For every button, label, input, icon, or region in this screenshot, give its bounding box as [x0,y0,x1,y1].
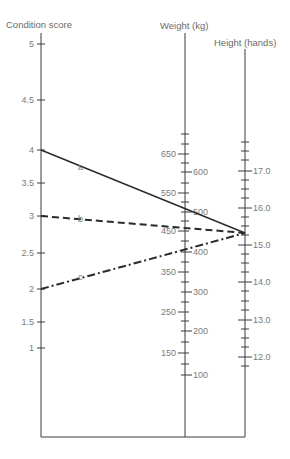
line-a [41,150,245,233]
weight-label-right: 600 [193,167,208,177]
line-c [41,233,245,289]
height-label: 17.0 [253,166,271,176]
axes-frame [41,33,245,437]
weight-label-right: 200 [193,326,208,336]
weight-axis-title: Weight (kg) [160,20,208,31]
nomogram-chart: Condition score Weight (kg) Height (hand… [0,0,290,459]
cs-label: 4.5 [21,95,34,105]
line-c-label: c [78,272,83,282]
height-label: 15.0 [253,240,271,250]
cs-label: 2 [29,284,34,294]
height-label: 16.0 [253,203,271,213]
cs-label: 1 [29,343,34,353]
height-tick-labels: 17.0 16.0 15.0 14.0 13.0 12.0 [253,166,271,362]
weight-label-left: 350 [161,267,176,277]
height-label: 12.0 [253,352,271,362]
cs-label: 1.5 [21,317,34,327]
line-b [41,216,245,233]
weight-label-right: 100 [193,370,208,380]
series-lines [41,150,245,289]
cs-label: 5 [29,39,34,49]
cs-label: 2.5 [21,248,34,258]
weight-label-left: 650 [161,149,176,159]
line-b-label: b [78,214,83,224]
height-axis-title: Height (hands) [214,37,276,48]
condition-tick-labels: 5 4.5 4 3.5 3 2.5 2 1.5 1 [21,39,34,353]
weight-label-right: 400 [193,247,208,257]
weight-label-left: 250 [161,307,176,317]
line-a-label: a [78,162,83,172]
height-label: 14.0 [253,277,271,287]
height-label: 13.0 [253,315,271,325]
weight-label-left: 150 [161,348,176,358]
cs-label: 3.5 [21,178,34,188]
condition-axis-title: Condition score [6,19,72,30]
weight-label-left: 550 [161,188,176,198]
weight-label-right: 300 [193,287,208,297]
cs-label: 3 [29,211,34,221]
cs-label: 4 [29,145,34,155]
